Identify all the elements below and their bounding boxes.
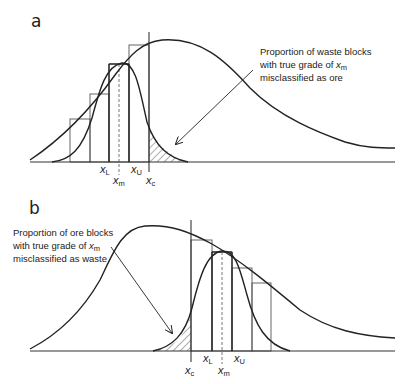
panel-a-label-xL: xL (99, 163, 110, 177)
panel-a-annotation-line2: with true grade of xm (259, 59, 347, 72)
bar (212, 252, 232, 351)
panel-b-conditional-distribution-curve (153, 251, 290, 351)
panel-a-label-xU: xU (130, 163, 142, 177)
panel-b-annotation-line1: Proportion of ore blocks (13, 227, 114, 238)
panel-a-arrow (176, 70, 253, 144)
panel-b: b Proportion of ore blocks with true gra… (12, 198, 395, 378)
panel-a-hatched-area (149, 127, 188, 162)
panel-a-label-xc: xc (145, 174, 156, 188)
panel-a: a Proportion of waste blocks with true g… (30, 11, 395, 188)
panel-b-label-xm: xm (217, 364, 230, 378)
panel-b-label-xU: xU (233, 352, 245, 366)
misclassification-diagram: a Proportion of waste blocks with true g… (0, 0, 405, 384)
panel-b-annotation-line3: misclassified as waste (13, 253, 107, 264)
panel-a-conditional-distribution-curve (52, 63, 188, 162)
bar (232, 268, 252, 351)
panel-b-label: b (29, 198, 40, 218)
bar (129, 45, 149, 162)
panel-a-annotation-line1: Proportion of waste blocks (260, 46, 372, 57)
panel-a-label: a (31, 11, 41, 31)
panel-b-arrow (111, 247, 172, 333)
panel-b-annotation-line2: with true grade of xm (12, 240, 100, 253)
panel-a-annotation-line3: misclassified as ore (260, 72, 343, 83)
bar (191, 240, 212, 351)
panel-b-label-xc: xc (184, 364, 195, 378)
panel-b-label-xL: xL (202, 352, 213, 366)
panel-a-label-xm: xm (112, 174, 125, 188)
panel-a-population-curve (30, 40, 395, 160)
